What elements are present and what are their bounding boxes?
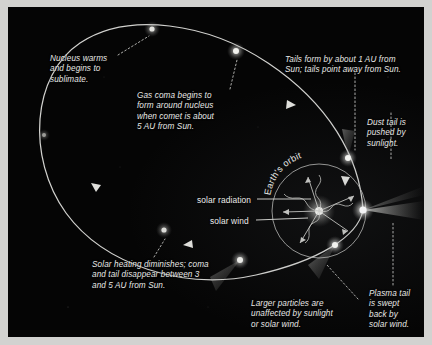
comet-inbound-with-tail	[339, 129, 357, 167]
solar-radiation-rays	[283, 177, 354, 243]
diagram-plate: Earth's orbit solar radiation solar wind…	[8, 7, 424, 337]
leader-larger-particles	[327, 265, 358, 299]
callout-rules	[256, 199, 311, 220]
rule-solar-wind	[256, 218, 308, 220]
annotation-gas-coma: Gas coma begins to form around nucleus w…	[137, 91, 241, 133]
comet-nucleus-fading	[156, 222, 172, 238]
comet-nucleus-far-left	[38, 129, 50, 141]
annotation-nucleus-warms: Nucleus warms and begins to sublimate.	[50, 54, 142, 85]
leader-nucleus	[118, 36, 149, 55]
annotation-larger-particles: Larger particles are unaffected by sunli…	[251, 299, 371, 330]
earths-orbit-label: Earth's orbit	[262, 150, 302, 196]
comet-nucleus-sublimate	[144, 21, 160, 37]
annotation-plasma-tail: Plasma tail is swept back by solar wind.	[369, 289, 424, 331]
comet-perihelion-with-tails	[352, 187, 424, 221]
leader-solar-heating	[154, 239, 165, 257]
solar-radiation-label: solar radiation	[197, 195, 251, 205]
leader-gas-coma	[230, 60, 237, 89]
annotation-solar-heating: Solar heating diminishes; coma and tail …	[92, 260, 234, 291]
comet-orbit-diagram: Earth's orbit solar radiation solar wind…	[0, 0, 432, 345]
comet-nucleus-gas-coma	[227, 42, 245, 60]
annotation-dust-tail: Dust tail is pushed by sunlight.	[367, 118, 424, 149]
solar-wind-label: solar wind	[210, 216, 249, 226]
annotation-tails-form: Tails form by about 1 AU from Sun; tails…	[285, 55, 424, 76]
